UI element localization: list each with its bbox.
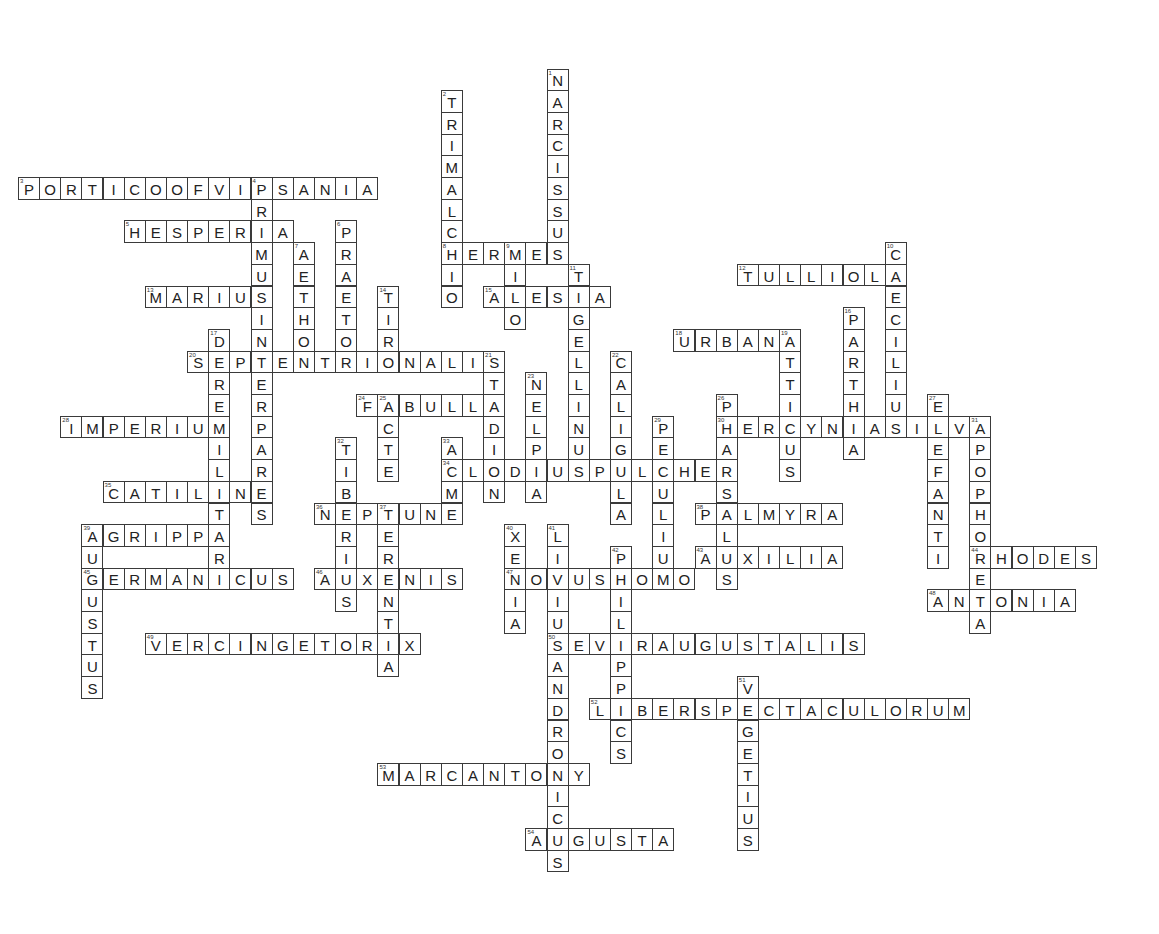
crossword-cell[interactable]: A [483, 394, 505, 417]
crossword-cell[interactable]: S [166, 220, 188, 243]
crossword-cell[interactable]: X [737, 546, 759, 569]
crossword-cell[interactable]: B [335, 481, 357, 504]
crossword-cell[interactable]: L [610, 611, 632, 634]
crossword-cell[interactable]: L [187, 481, 209, 504]
crossword-cell[interactable]: A [525, 481, 547, 504]
crossword-cell[interactable]: 27E [927, 394, 949, 417]
crossword-cell[interactable]: O [293, 329, 315, 352]
crossword-cell[interactable]: H [610, 568, 632, 591]
crossword-cell[interactable]: T [314, 633, 336, 656]
crossword-cell[interactable]: I [547, 155, 569, 178]
crossword-cell[interactable]: U [229, 286, 251, 309]
crossword-cell[interactable]: A [716, 437, 738, 460]
crossword-cell[interactable]: L [504, 286, 526, 309]
crossword-cell[interactable]: A [293, 177, 315, 200]
crossword-cell[interactable]: R [60, 177, 82, 200]
crossword-cell[interactable]: Y [800, 416, 822, 439]
crossword-cell[interactable]: L [568, 372, 590, 395]
crossword-cell[interactable]: U [716, 633, 738, 656]
crossword-cell[interactable]: E [293, 264, 315, 287]
crossword-cell[interactable]: A [800, 698, 822, 721]
crossword-cell[interactable]: A [356, 177, 378, 200]
crossword-cell[interactable]: G [610, 437, 632, 460]
crossword-cell[interactable]: 35C [103, 481, 125, 504]
crossword-cell[interactable]: R [673, 698, 695, 721]
crossword-cell[interactable]: 8H [441, 242, 463, 265]
crossword-cell[interactable]: S [843, 633, 865, 656]
crossword-cell[interactable]: 46A [314, 568, 336, 591]
crossword-cell[interactable]: N [420, 503, 442, 526]
crossword-cell[interactable]: O [843, 264, 865, 287]
crossword-cell[interactable]: I [885, 329, 907, 352]
crossword-cell[interactable]: 44R [969, 546, 991, 569]
crossword-cell[interactable]: N [927, 503, 949, 526]
crossword-cell[interactable]: E [377, 524, 399, 547]
crossword-cell[interactable]: 11T [568, 264, 590, 287]
crossword-cell[interactable]: T [631, 828, 653, 851]
crossword-cell[interactable]: L [462, 459, 484, 482]
crossword-cell[interactable]: L [568, 351, 590, 374]
crossword-cell[interactable]: N [187, 568, 209, 591]
crossword-cell[interactable]: H [293, 307, 315, 330]
crossword-cell[interactable]: N [568, 416, 590, 439]
crossword-cell[interactable]: I [145, 524, 167, 547]
crossword-cell[interactable]: M [81, 416, 103, 439]
crossword-cell[interactable]: 41L [547, 524, 569, 547]
crossword-cell[interactable]: E [504, 546, 526, 569]
crossword-cell[interactable]: U [81, 589, 103, 612]
crossword-cell[interactable]: R [124, 568, 146, 591]
crossword-cell[interactable]: N [547, 763, 569, 786]
crossword-cell[interactable]: O [483, 459, 505, 482]
crossword-cell[interactable]: I [504, 264, 526, 287]
crossword-cell[interactable]: U [187, 416, 209, 439]
crossword-cell[interactable]: B [399, 394, 421, 417]
crossword-cell[interactable]: V [589, 633, 611, 656]
crossword-cell[interactable]: L [779, 546, 801, 569]
crossword-cell[interactable]: O [145, 177, 167, 200]
crossword-cell[interactable]: I [229, 177, 251, 200]
crossword-cell[interactable]: A [821, 503, 843, 526]
crossword-cell[interactable]: R [843, 351, 865, 374]
crossword-cell[interactable]: R [335, 524, 357, 547]
crossword-cell[interactable]: S [335, 589, 357, 612]
crossword-cell[interactable]: X [399, 633, 421, 656]
crossword-cell[interactable]: I [737, 785, 759, 808]
crossword-cell[interactable]: O [166, 177, 188, 200]
crossword-cell[interactable]: R [251, 459, 273, 482]
crossword-cell[interactable]: 49V [145, 633, 167, 656]
crossword-cell[interactable]: O [547, 741, 569, 764]
crossword-cell[interactable]: 2T [441, 90, 463, 113]
crossword-cell[interactable]: I [441, 264, 463, 287]
crossword-cell[interactable]: E [251, 481, 273, 504]
crossword-cell[interactable]: Y [568, 763, 590, 786]
crossword-cell[interactable]: A [547, 654, 569, 677]
crossword-cell[interactable]: N [399, 351, 421, 374]
crossword-cell[interactable]: 51V [737, 676, 759, 699]
crossword-cell[interactable]: O [525, 568, 547, 591]
crossword-cell[interactable]: O [504, 307, 526, 330]
crossword-cell[interactable]: I [821, 264, 843, 287]
crossword-cell[interactable]: A [441, 177, 463, 200]
crossword-cell[interactable]: I [166, 481, 188, 504]
crossword-cell[interactable]: H [969, 503, 991, 526]
crossword-cell[interactable]: R [377, 329, 399, 352]
crossword-cell[interactable]: S [547, 199, 569, 222]
crossword-cell[interactable]: R [906, 698, 928, 721]
crossword-cell[interactable]: I [377, 307, 399, 330]
crossword-cell[interactable]: L [610, 481, 632, 504]
crossword-cell[interactable]: C [547, 134, 569, 157]
crossword-cell[interactable]: A [377, 654, 399, 677]
crossword-cell[interactable]: T [314, 351, 336, 374]
crossword-cell[interactable]: U [568, 437, 590, 460]
crossword-cell[interactable]: P [525, 437, 547, 460]
crossword-cell[interactable]: A [504, 611, 526, 634]
crossword-cell[interactable]: M [441, 155, 463, 178]
crossword-cell[interactable]: I [1033, 589, 1055, 612]
crossword-cell[interactable]: I [568, 286, 590, 309]
crossword-cell[interactable]: 5H [124, 220, 146, 243]
crossword-cell[interactable]: E [737, 416, 759, 439]
crossword-cell[interactable]: 9M [504, 242, 526, 265]
crossword-cell[interactable]: N [547, 676, 569, 699]
crossword-cell[interactable]: I [610, 589, 632, 612]
crossword-cell[interactable]: R [631, 633, 653, 656]
